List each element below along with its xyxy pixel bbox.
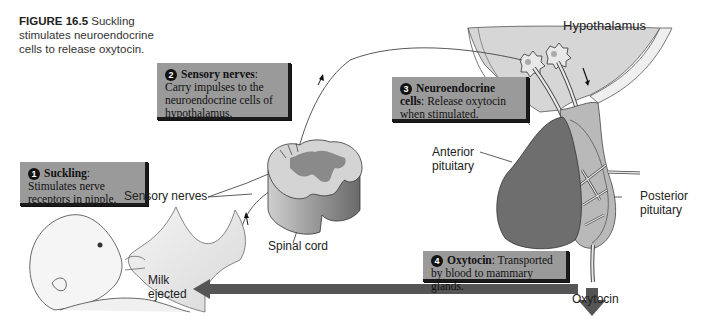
step-3-box: 3Neuroendocrine cells: Release oxytocin … xyxy=(392,77,529,122)
spinal-cord xyxy=(268,140,362,234)
step-2-box: 2Sensory nerves: Carry impulses to the n… xyxy=(157,63,291,120)
step-4-number: 4 xyxy=(431,255,443,267)
step-3-number: 3 xyxy=(400,83,412,95)
step-4-heading: Oxytocin xyxy=(447,254,492,266)
step-2-heading: Sensory nerves xyxy=(181,68,255,80)
label-milk-line2: ejected xyxy=(148,287,187,301)
label-anterior-pituitary: Anterior pituitary xyxy=(432,145,474,173)
step-1-heading: Suckling xyxy=(44,167,87,179)
label-posterior-pituitary: Posterior pituitary xyxy=(640,189,688,217)
step-4-box: 4Oxytocin: Transported by blood to mamma… xyxy=(423,251,569,282)
label-oxytocin: Oxytocin xyxy=(572,292,619,306)
label-posterior-line2: pituitary xyxy=(640,203,688,217)
step-2-number: 2 xyxy=(165,69,177,81)
step-2-body: Carry impulses to the neuroendocrine cel… xyxy=(165,81,273,119)
label-anterior-line2: pituitary xyxy=(432,159,474,173)
anterior-pituitary xyxy=(497,117,582,249)
label-milk-line1: Milk xyxy=(148,273,187,287)
pituitary xyxy=(497,102,640,316)
label-anterior-line1: Anterior xyxy=(432,145,474,159)
label-sensory-nerves: Sensory nerves xyxy=(124,189,207,203)
label-spinal-cord: Spinal cord xyxy=(268,239,328,253)
step-1-body: Stimulates nerve receptors in nipple. xyxy=(28,180,116,205)
label-hypothalamus: Hypothalamus xyxy=(563,19,646,33)
oxytocin-to-milk-arrow xyxy=(193,279,578,299)
label-posterior-line1: Posterior xyxy=(640,189,688,203)
step-1-number: 1 xyxy=(28,168,40,180)
mother-and-baby xyxy=(30,207,246,312)
label-milk-ejected: Milk ejected xyxy=(148,273,187,301)
